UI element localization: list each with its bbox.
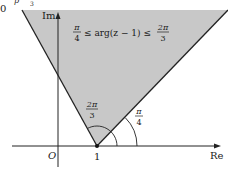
cropped-text-zero: 0 bbox=[0, 3, 6, 14]
svg-text:π: π bbox=[73, 23, 80, 32]
svg-text:3: 3 bbox=[89, 111, 94, 120]
svg-text:4: 4 bbox=[74, 34, 79, 43]
svg-text:π: π bbox=[135, 107, 142, 116]
imaginary-axis-label: Im bbox=[42, 10, 56, 21]
svg-text:2π: 2π bbox=[157, 23, 169, 32]
real-axis-label: Re bbox=[210, 150, 224, 161]
origin-label: O bbox=[48, 150, 56, 161]
angle-label-pi-4: π 4 bbox=[135, 107, 143, 127]
angle-arc-pi-4 bbox=[125, 118, 137, 146]
argand-diagram: 0 p 3 Im Re O 1 π 4 ≤ arg(z − 1) ≤ 2π 3 … bbox=[0, 0, 228, 169]
svg-text:≤ arg(z − 1) ≤: ≤ arg(z − 1) ≤ bbox=[84, 28, 151, 38]
point-one-label: 1 bbox=[94, 151, 100, 162]
svg-text:3: 3 bbox=[160, 34, 165, 43]
real-axis-arrow-icon bbox=[214, 144, 221, 149]
point-one bbox=[95, 144, 99, 148]
svg-text:2π: 2π bbox=[86, 100, 98, 109]
cropped-text-3: 3 bbox=[30, 0, 34, 7]
svg-text:4: 4 bbox=[136, 118, 141, 127]
cropped-text-p: p bbox=[14, 0, 19, 5]
